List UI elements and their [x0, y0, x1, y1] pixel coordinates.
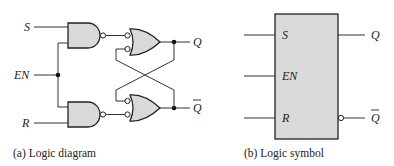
- input-label-r: R: [21, 116, 30, 130]
- input-label-en: EN: [13, 68, 30, 82]
- symbol-output-label-qbar: Q: [371, 111, 380, 125]
- or-gate-upper: [130, 29, 160, 55]
- symbol-label-en: EN: [281, 69, 298, 83]
- or-upper-input-bubble-2: [125, 46, 130, 51]
- nand-gate-upper: [68, 23, 100, 48]
- output-label-q: Q: [193, 35, 202, 49]
- caption-logic-symbol: (b) Logic symbol: [244, 147, 324, 160]
- or-lower-input-bubble-1: [125, 98, 130, 103]
- logic-symbol: S EN R Q Q (b) Logic symbol: [244, 14, 380, 160]
- junction-dot-en: [56, 73, 61, 78]
- symbol-label-r: R: [281, 111, 290, 125]
- nand-bubble-lower: [100, 112, 105, 117]
- output-label-qbar: Q: [193, 101, 202, 115]
- symbol-label-s: S: [282, 28, 288, 42]
- symbol-output-label-q: Q: [371, 28, 380, 42]
- symbol-qbar-bubble: [338, 115, 343, 120]
- or-upper-input-bubble-1: [125, 33, 130, 38]
- nand-bubble-upper: [100, 33, 105, 38]
- gated-sr-latch-figure: S EN R: [0, 0, 394, 166]
- or-gate-lower: [130, 95, 160, 121]
- caption-logic-diagram: (a) Logic diagram: [13, 147, 96, 160]
- logic-diagram: S EN R: [13, 20, 202, 160]
- or-lower-input-bubble-2: [125, 112, 130, 117]
- input-label-s: S: [24, 20, 30, 34]
- nand-gate-lower: [68, 102, 100, 127]
